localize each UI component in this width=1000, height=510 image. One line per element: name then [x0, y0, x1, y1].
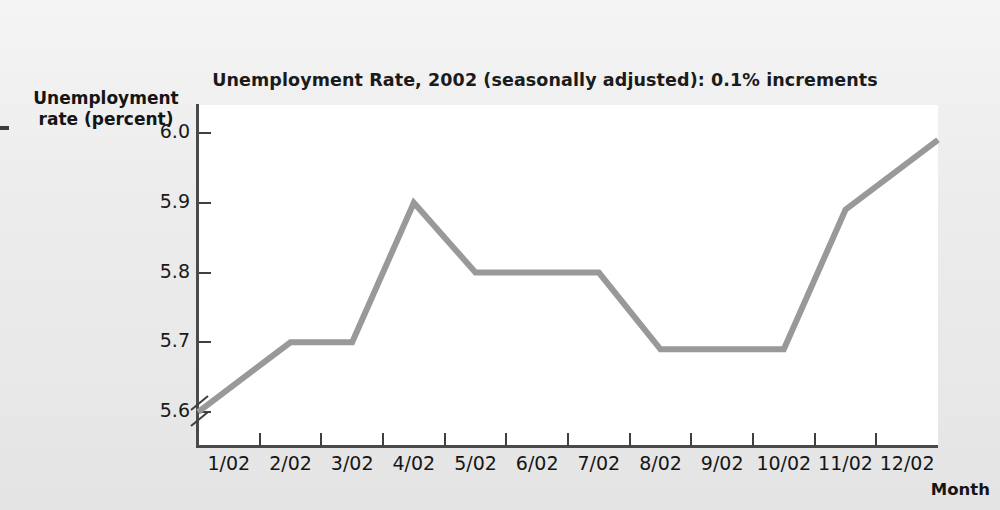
unemployment-rate-line [198, 140, 938, 412]
y-axis-tick-label: 5.6 [132, 399, 190, 421]
y-axis-tick-label: 6.0 [132, 120, 190, 142]
y-axis-tick-label: 5.7 [132, 329, 190, 351]
y-axis-tick-label: 5.8 [132, 260, 190, 282]
y-axis-tick-labels: 5.65.75.85.96.0 [128, 0, 190, 510]
x-axis-title: Month [931, 480, 990, 499]
data-series-line [198, 105, 938, 447]
y-axis-tick-label: 5.9 [132, 190, 190, 212]
page-edge-artifact [0, 126, 9, 130]
x-axis-tick-label: 12/02 [867, 452, 947, 474]
